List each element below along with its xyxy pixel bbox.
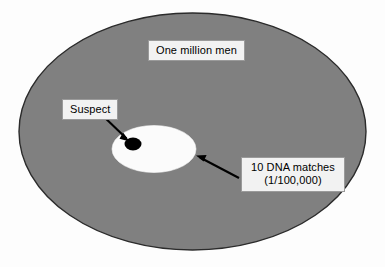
diagram-canvas: One million men Suspect 10 DNA matches (… bbox=[0, 0, 385, 267]
label-dna-matches-line-1: 10 DNA matches bbox=[251, 161, 335, 174]
label-suspect: Suspect bbox=[62, 99, 118, 120]
label-dna-matches: 10 DNA matches (1/100,000) bbox=[241, 157, 345, 192]
label-one-million-men: One million men bbox=[148, 40, 245, 61]
label-dna-matches-line-2: (1/100,000) bbox=[251, 174, 335, 187]
inner-dna-match-ellipse bbox=[112, 126, 196, 173]
